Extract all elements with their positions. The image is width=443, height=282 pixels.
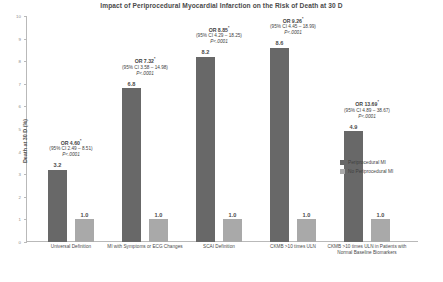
or-p-value: P<.0001: [96, 71, 194, 77]
bar-periprocedural-mi[interactable]: 8.6: [270, 48, 289, 242]
y-tick: 9: [24, 39, 27, 40]
y-tick-label: 5: [19, 127, 21, 132]
bar-periprocedural-mi[interactable]: 3.2: [48, 170, 67, 242]
bar-value-label: 1.0: [303, 212, 311, 218]
bar-group: 8.61.0: [262, 16, 324, 242]
or-p-value: P<.0001: [170, 39, 268, 45]
bar-group: 8.21.0: [188, 16, 250, 242]
y-tick-label: 1: [19, 217, 21, 222]
or-p-value: P<.0001: [22, 152, 120, 158]
or-footnote-marker: *: [228, 26, 229, 30]
bar-periprocedural-mi[interactable]: 4.9: [344, 131, 363, 242]
or-value: OR 9.26*: [244, 17, 342, 25]
bar-periprocedural-mi[interactable]: 6.8: [122, 88, 141, 242]
or-annotation: OR 13.69*(95% CI 4.89 – 38.67)P<.0001: [318, 100, 416, 120]
bar-value-label: 6.8: [128, 81, 136, 87]
y-tick-label: 9: [19, 36, 21, 41]
bar-group: 3.21.0: [40, 16, 102, 242]
bar-no-periprocedural-mi[interactable]: 1.0: [297, 219, 316, 242]
bar-value-label: 8.6: [276, 40, 284, 46]
y-tick: 2: [24, 197, 27, 198]
chart-container: Impact of Periprocedural Myocardial Infa…: [0, 0, 443, 282]
bar-no-periprocedural-mi[interactable]: 1.0: [149, 219, 168, 242]
bar-value-label: 1.0: [377, 212, 385, 218]
legend-item-label: Periprocedural MI: [348, 160, 386, 165]
y-tick: 1: [24, 219, 27, 220]
or-value: OR 4.60*: [22, 139, 120, 147]
or-annotation: OR 4.60*(95% CI 2.49 – 8.51)P<.0001: [22, 139, 120, 159]
bar-group: 6.81.0: [114, 16, 176, 242]
bar-no-periprocedural-mi[interactable]: 1.0: [75, 219, 94, 242]
x-axis-category-label: CKMB >10 times ULN in Patients with Norm…: [324, 244, 410, 257]
y-tick: 6: [24, 106, 27, 107]
y-tick: 7: [24, 84, 27, 85]
legend-swatch-icon: [340, 169, 345, 174]
bar-value-label: 1.0: [81, 212, 89, 218]
y-tick-label: 0: [19, 240, 21, 245]
y-tick-label: 8: [19, 59, 21, 64]
bar-periprocedural-mi[interactable]: 8.2: [196, 57, 215, 242]
or-annotation: OR 7.32*(95% CI 3.58 – 14.98)P<.0001: [96, 57, 194, 77]
or-p-value: P<.0001: [318, 114, 416, 120]
or-p-value: P<.0001: [244, 30, 342, 36]
bar-no-periprocedural-mi[interactable]: 1.0: [223, 219, 242, 242]
y-tick-label: 10: [16, 14, 21, 19]
legend-item[interactable]: No Periprocedural MI: [340, 169, 393, 174]
or-value: OR 13.69*: [318, 100, 416, 108]
or-footnote-marker: *: [80, 139, 81, 143]
legend-item[interactable]: Periprocedural MI: [340, 160, 393, 165]
or-footnote-marker: *: [302, 17, 303, 21]
bar-no-periprocedural-mi[interactable]: 1.0: [371, 219, 390, 242]
bar-value-label: 1.0: [155, 212, 163, 218]
or-annotation: OR 9.26*(95% CI 4.45 – 18.99)P<.0001: [244, 17, 342, 37]
chart-title: Impact of Periprocedural Myocardial Infa…: [0, 2, 443, 9]
bar-value-label: 1.0: [229, 212, 237, 218]
y-tick-label: 6: [19, 104, 21, 109]
y-axis-title: Death at 30 D (%): [22, 119, 28, 163]
bar-group: 4.91.0: [336, 16, 398, 242]
bar-value-label: 3.2: [54, 162, 62, 168]
or-value: OR 7.32*: [96, 57, 194, 65]
plot-area: 012345678910 3.21.06.81.08.21.08.61.04.9…: [26, 16, 418, 242]
y-tick-label: 3: [19, 172, 21, 177]
legend-item-label: No Periprocedural MI: [348, 169, 393, 174]
y-tick-label: 7: [19, 81, 21, 86]
y-tick: 8: [24, 61, 27, 62]
bar-value-label: 4.9: [350, 124, 358, 130]
legend-swatch-icon: [340, 160, 345, 165]
bar-value-label: 8.2: [202, 49, 210, 55]
y-tick: 3: [24, 174, 27, 175]
y-tick-label: 4: [19, 149, 21, 154]
y-tick: 0: [24, 242, 27, 243]
or-footnote-marker: *: [154, 57, 155, 61]
chart-legend: Periprocedural MINo Periprocedural MI: [340, 160, 393, 178]
y-tick: 10: [24, 16, 27, 17]
y-tick-label: 2: [19, 194, 21, 199]
or-footnote-marker: *: [377, 100, 378, 104]
